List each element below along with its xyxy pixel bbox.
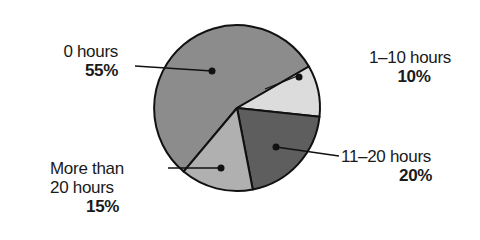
label-11-20-hours-pct: 20% <box>341 166 471 185</box>
label-0-hours-name: 0 hours <box>40 42 118 61</box>
label-11-20-hours-name: 11–20 hours <box>341 147 471 166</box>
label-1-10-hours-pct: 10% <box>350 67 470 86</box>
label-0-hours-pct: 55% <box>40 61 118 80</box>
label-more-than-20-hours-line2: 20 hours <box>50 178 160 197</box>
label-more-than-20-hours-pct: 15% <box>50 197 160 216</box>
label-more-than-20-hours-line1: More than <box>50 159 160 178</box>
label-11-20-hours: 11–20 hours 20% <box>341 147 471 185</box>
label-1-10-hours-name: 1–10 hours <box>350 48 470 67</box>
label-1-10-hours: 1–10 hours 10% <box>350 48 470 86</box>
label-more-than-20-hours: More than 20 hours 15% <box>50 159 160 216</box>
label-0-hours: 0 hours 55% <box>40 42 118 80</box>
